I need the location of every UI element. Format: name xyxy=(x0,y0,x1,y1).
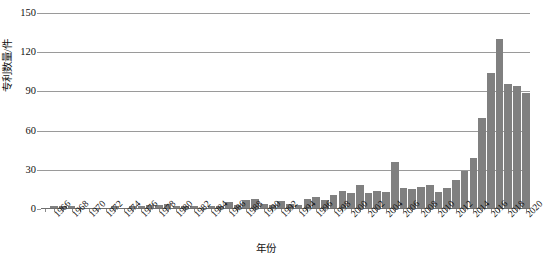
y-axis-tick-label: 120 xyxy=(20,47,36,57)
bars-group xyxy=(41,13,530,209)
y-axis-tick-label: 60 xyxy=(26,126,37,136)
bar xyxy=(513,86,521,209)
bar xyxy=(522,93,530,209)
bar xyxy=(504,84,512,209)
bar xyxy=(487,73,495,209)
y-axis-tick-label: 90 xyxy=(26,86,37,96)
y-axis-tick-label: 30 xyxy=(26,165,37,175)
bar xyxy=(478,118,486,209)
y-axis-tick-label: 0 xyxy=(31,204,36,214)
x-axis-title: 年份 xyxy=(0,243,532,254)
y-axis-title: 专利数量/件 xyxy=(2,39,13,92)
y-axis-tick-label: 150 xyxy=(20,8,36,18)
plot-area: 0306090120150 xyxy=(41,13,530,209)
bar xyxy=(496,39,504,209)
